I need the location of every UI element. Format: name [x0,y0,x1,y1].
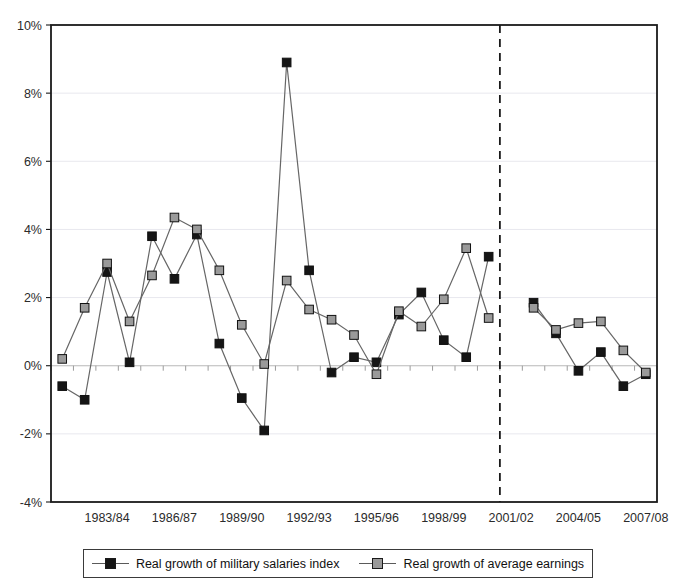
data-point-marker [103,259,112,268]
chart-legend: Real growth of military salaries index R… [83,549,593,578]
data-point-marker [170,213,179,222]
legend-item-military: Real growth of military salaries index [92,557,340,571]
data-point-marker [529,303,538,312]
data-point-marker [305,305,314,314]
data-point-marker [597,317,606,326]
y-tick-label: 8% [24,87,42,101]
data-point-marker [125,317,134,326]
y-tick-label: 6% [24,155,42,169]
x-tick-label: 1995/96 [354,511,399,525]
data-point-marker [597,348,606,357]
data-point-marker [193,225,202,234]
data-point-marker [417,322,426,331]
legend-label-earnings: Real growth of average earnings [403,557,584,571]
y-tick-label: 0% [24,359,42,373]
plot-background [51,25,657,502]
x-tick-label: 1998/99 [421,511,466,525]
data-point-marker [417,288,426,297]
data-point-marker [574,367,583,376]
legend-line-icon [116,563,129,565]
data-point-marker [462,244,471,253]
data-point-marker [327,368,336,377]
data-point-marker [327,315,336,324]
legend-line-icon [359,563,372,565]
chart-page: -4%-2%0%2%4%6%8%10%1983/841986/871989/90… [0,0,674,584]
y-tick-label: 2% [24,291,42,305]
data-point-marker [439,295,448,304]
legend-label-military: Real growth of military salaries index [136,557,340,571]
data-point-marker [237,321,246,330]
data-point-marker [552,326,561,335]
legend-item-earnings: Real growth of average earnings [359,557,584,571]
data-point-marker [574,319,583,328]
chart-plot-area: -4%-2%0%2%4%6%8%10%1983/841986/871989/90… [0,0,674,584]
data-point-marker [395,307,404,316]
x-tick-label: 2001/02 [489,511,534,525]
data-point-marker [80,395,89,404]
data-point-marker [641,368,650,377]
data-point-marker [80,303,89,312]
data-point-marker [484,252,493,261]
data-point-marker [58,382,67,391]
x-tick-label: 1983/84 [85,511,130,525]
data-point-marker [439,336,448,345]
x-tick-label: 1992/93 [287,511,332,525]
y-tick-label: -4% [20,496,42,510]
y-tick-label: 10% [17,19,42,33]
data-point-marker [215,339,224,348]
data-point-marker [125,358,134,367]
x-tick-label: 1989/90 [219,511,264,525]
data-point-marker [58,355,67,364]
legend-line-icon [383,563,396,565]
data-point-marker [215,266,224,275]
data-point-marker [170,275,179,284]
data-point-marker [619,346,628,355]
data-point-marker [305,266,314,275]
data-point-marker [462,353,471,362]
y-tick-label: 4% [24,223,42,237]
data-point-marker [372,370,381,379]
data-point-marker [282,276,291,285]
data-point-marker [619,382,628,391]
data-point-marker [148,232,157,241]
line-chart: -4%-2%0%2%4%6%8%10%1983/841986/871989/90… [0,0,674,584]
x-tick-label: 2007/08 [623,511,668,525]
x-tick-label: 2004/05 [556,511,601,525]
legend-square-grey-icon [372,558,383,569]
data-point-marker [282,58,291,67]
data-point-marker [148,271,157,280]
data-point-marker [260,360,269,369]
legend-line-icon [92,563,105,565]
legend-square-black-icon [105,558,116,569]
data-point-marker [237,394,246,403]
data-point-marker [350,331,359,340]
data-point-marker [350,353,359,362]
y-tick-label: -2% [20,427,42,441]
x-tick-label: 1986/87 [152,511,197,525]
data-point-marker [484,314,493,323]
data-point-marker [260,426,269,435]
